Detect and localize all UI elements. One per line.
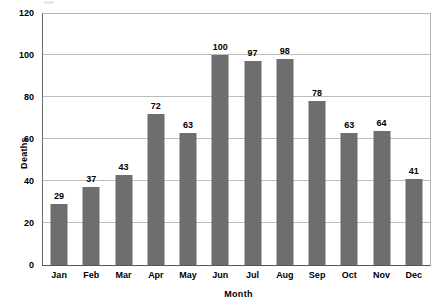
bar-slot: 98 bbox=[269, 13, 301, 265]
bar-value-label: 97 bbox=[248, 48, 258, 58]
bar[interactable] bbox=[212, 55, 229, 265]
bar-value-label: 37 bbox=[86, 174, 96, 184]
y-tick-label: 20 bbox=[24, 218, 34, 228]
x-tick-label-apr: Apr bbox=[148, 270, 164, 280]
bar-value-label: 78 bbox=[312, 88, 322, 98]
bar-slot: 97 bbox=[237, 13, 269, 265]
y-tick-label: 60 bbox=[24, 134, 34, 144]
x-tick-label-jun: Jun bbox=[212, 270, 228, 280]
top-edge-artifact bbox=[44, 1, 54, 4]
bar[interactable] bbox=[309, 101, 326, 265]
bar-value-label: 63 bbox=[344, 120, 354, 130]
bar-slot: 78 bbox=[301, 13, 333, 265]
bar-value-label: 63 bbox=[183, 120, 193, 130]
bar-slot: 63 bbox=[172, 13, 204, 265]
bar-slot: 64 bbox=[366, 13, 398, 265]
bars-layer: 2937437263100979878636441 bbox=[43, 13, 430, 265]
y-tick-label: 80 bbox=[24, 92, 34, 102]
bar[interactable] bbox=[373, 131, 390, 265]
y-tick-label: 0 bbox=[29, 260, 34, 270]
y-axis-tick-labels: 020406080100120 bbox=[0, 13, 38, 266]
x-axis-title: Month bbox=[42, 289, 435, 299]
x-tick-label-mar: Mar bbox=[116, 270, 132, 280]
bar-slot: 72 bbox=[140, 13, 172, 265]
bar[interactable] bbox=[51, 204, 68, 265]
bar-chart: Deaths 020406080100120 29374372631009798… bbox=[0, 0, 445, 306]
x-tick-label-oct: Oct bbox=[342, 270, 357, 280]
bar[interactable] bbox=[276, 59, 293, 265]
bar[interactable] bbox=[115, 175, 132, 265]
x-tick-label-jul: Jul bbox=[246, 270, 259, 280]
bar-slot: 41 bbox=[398, 13, 430, 265]
bar[interactable] bbox=[147, 114, 164, 265]
x-tick-label-may: May bbox=[179, 270, 197, 280]
bar-value-label: 29 bbox=[54, 191, 64, 201]
x-tick-label-aug: Aug bbox=[276, 270, 294, 280]
bar-slot: 63 bbox=[333, 13, 365, 265]
x-axis-tick-labels: JanFebMarAprMayJunJulAugSepOctNovDec bbox=[43, 270, 430, 286]
bar[interactable] bbox=[341, 133, 358, 265]
bar-slot: 100 bbox=[204, 13, 236, 265]
bar-value-label: 64 bbox=[377, 118, 387, 128]
x-tick-label-sep: Sep bbox=[309, 270, 326, 280]
bar-value-label: 43 bbox=[119, 162, 129, 172]
bar-value-label: 72 bbox=[151, 101, 161, 111]
x-tick-label-jan: Jan bbox=[51, 270, 67, 280]
y-tick-label: 40 bbox=[24, 176, 34, 186]
x-tick-label-nov: Nov bbox=[373, 270, 390, 280]
y-tick-label: 120 bbox=[19, 8, 34, 18]
bar[interactable] bbox=[244, 61, 261, 265]
bar-value-label: 41 bbox=[409, 166, 419, 176]
bar-slot: 37 bbox=[75, 13, 107, 265]
bar-slot: 29 bbox=[43, 13, 75, 265]
bar[interactable] bbox=[83, 187, 100, 265]
bar-slot: 43 bbox=[108, 13, 140, 265]
bar-value-label: 98 bbox=[280, 46, 290, 56]
x-tick-label-feb: Feb bbox=[83, 270, 99, 280]
bar[interactable] bbox=[405, 179, 422, 265]
bar-value-label: 100 bbox=[213, 42, 228, 52]
bar[interactable] bbox=[180, 133, 197, 265]
x-tick-label-dec: Dec bbox=[406, 270, 423, 280]
y-tick-label: 100 bbox=[19, 50, 34, 60]
